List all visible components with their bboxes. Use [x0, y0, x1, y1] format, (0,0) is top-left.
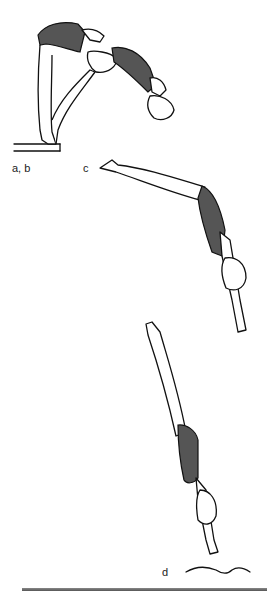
illustration-svg — [0, 0, 267, 592]
springboard — [14, 144, 60, 151]
water-surface — [186, 567, 250, 573]
stage-label-d: d — [162, 567, 168, 578]
diver-figure-d — [146, 322, 218, 554]
bottom-rule — [22, 588, 267, 591]
stage-label-c: c — [83, 163, 89, 174]
diver-figure-a — [38, 23, 116, 144]
stage-label-ab: a, b — [12, 163, 30, 174]
dive-sequence-illustration: a, b c d — [0, 0, 267, 592]
diver-figure-c — [100, 160, 246, 332]
diver-figure-b — [112, 47, 174, 119]
